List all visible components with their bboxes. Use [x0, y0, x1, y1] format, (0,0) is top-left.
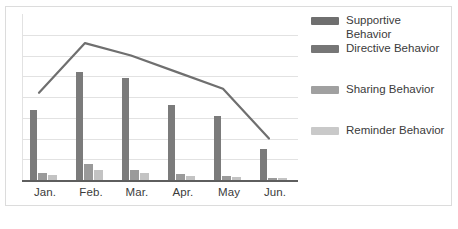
legend-item-directive[interactable]: Directive Behavior: [311, 42, 451, 83]
legend-label-reminder: Reminder Behavior: [346, 124, 451, 138]
x-tick-label: Apr.: [160, 186, 206, 198]
x-axis-line: [22, 180, 298, 182]
legend-item-supportive[interactable]: Supportive Behavior: [311, 14, 451, 42]
x-tick-label: May: [206, 186, 252, 198]
legend-swatch-supportive: [311, 17, 339, 25]
legend-item-reminder[interactable]: Reminder Behavior: [311, 124, 451, 154]
x-tick-label: Mar.: [114, 186, 160, 198]
plot-area: [22, 14, 298, 182]
line-series-layer: [22, 14, 298, 182]
chart-legend: Supportive Behavior Directive Behavior S…: [311, 14, 451, 154]
x-axis-tick-labels: Jan.Feb.Mar.Apr.MayJun.: [22, 186, 298, 204]
legend-swatch-sharing: [311, 86, 339, 94]
legend-label-supportive-line2: Behavior: [346, 28, 451, 42]
x-tick-label: Jan.: [22, 186, 68, 198]
legend-label-sharing: Sharing Behavior: [346, 83, 451, 97]
x-tick-label: Jun.: [252, 186, 298, 198]
legend-label-supportive-line1: Supportive: [346, 14, 451, 28]
legend-swatch-reminder: [311, 127, 339, 135]
legend-item-sharing[interactable]: Sharing Behavior: [311, 83, 451, 124]
legend-label-directive: Directive Behavior: [346, 42, 451, 56]
x-tick-label: Feb.: [68, 186, 114, 198]
chart-figure: Jan.Feb.Mar.Apr.MayJun. Supportive Behav…: [0, 0, 458, 229]
legend-label-supportive: Supportive Behavior: [346, 14, 451, 41]
line-supportive-behavior: [39, 43, 269, 138]
legend-swatch-directive: [311, 45, 339, 53]
